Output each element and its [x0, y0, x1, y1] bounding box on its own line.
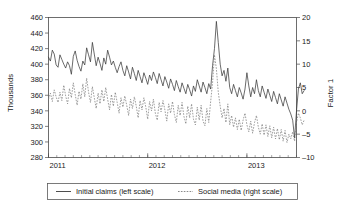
y-tick-label: 280: [30, 153, 43, 162]
y-tick-label: 440: [30, 29, 43, 38]
x-tick-label: 2013: [248, 161, 265, 170]
x-tick-label: 2011: [50, 161, 66, 170]
y2-tick-label: 15: [302, 37, 310, 46]
y2-tick-label: –5: [302, 130, 310, 139]
y-tick-label: 360: [30, 91, 43, 100]
y-tick-label: 420: [30, 44, 43, 53]
y-tick-label: 300: [30, 138, 43, 147]
y-tick-label: 400: [30, 60, 43, 69]
y-tick-label: 320: [30, 122, 43, 131]
y2-tick-label: 20: [302, 13, 310, 22]
y2-tick-label: 10: [302, 60, 310, 69]
y-tick-label: 380: [30, 75, 43, 84]
y-tick-label: 340: [30, 107, 43, 116]
y-tick-label: 460: [30, 13, 43, 22]
y-axis-title: Thousands: [6, 74, 15, 112]
figure-background: [0, 0, 342, 207]
y2-tick-label: 0: [302, 107, 306, 116]
legend-label-initial-claims: Initial claims (left scale): [76, 187, 154, 196]
legend-label-social-media: Social media (right scale): [198, 187, 283, 196]
y2-tick-label: –10: [302, 153, 315, 162]
chart-figure: Thousands Factor 1 280300320340360380400…: [0, 0, 342, 207]
y2-axis-title: Factor 1: [326, 79, 335, 107]
x-tick-label: 2012: [149, 161, 166, 170]
